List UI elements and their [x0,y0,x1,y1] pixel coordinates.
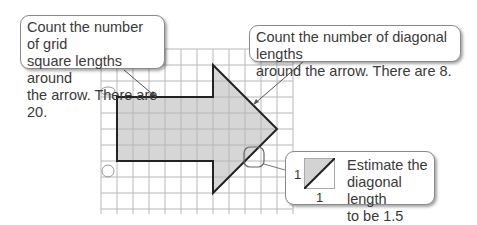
pencil-circle-mark [102,165,114,177]
side-label-horizontal: 1 [316,189,323,206]
callout-line: the arrow. There are 20. [27,87,158,121]
callout-estimate: 1 1 Estimate the diagonal length to be 1… [285,151,435,205]
callout-line: Estimate the [347,157,435,174]
callout-diagonal-lengths: Count the number of diagonal lengths aro… [249,25,461,62]
callout-line: around the arrow. There are 8. [256,63,454,80]
side-label-vertical: 1 [294,166,301,183]
callout-line: square lengths around [27,53,158,87]
callout-line: Count the number of diagonal lengths [256,29,454,63]
pointer-line [264,164,285,170]
callout-line: to be 1.5 units. [347,208,435,225]
callout-grid-lengths: Count the number of grid square lengths … [20,15,165,69]
callout-line: Count the number of grid [27,19,158,53]
unit-square-diagonal-icon [304,158,335,189]
callout-line: diagonal length [347,174,435,208]
